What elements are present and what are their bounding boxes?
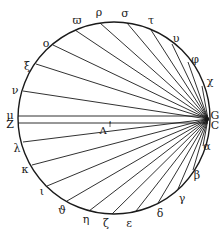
point-label: λ xyxy=(14,143,21,154)
point-label: ε xyxy=(126,218,132,229)
chord-line xyxy=(100,23,208,119)
point-label: ι xyxy=(40,186,44,197)
point-label: η xyxy=(83,214,90,225)
point-label: υ xyxy=(173,33,180,44)
chord-line xyxy=(32,119,208,165)
point-label: ο xyxy=(43,38,50,49)
point-label: χ xyxy=(207,76,214,87)
chord-line xyxy=(75,30,208,119)
point-label: α xyxy=(203,141,210,152)
point-label: μ xyxy=(6,110,13,121)
point-label: β xyxy=(194,170,200,181)
focus-point xyxy=(205,117,209,121)
interior-label-lambda: Λ xyxy=(99,126,106,136)
chord-line xyxy=(89,119,208,211)
chord-line xyxy=(23,91,208,119)
point-label: φ xyxy=(191,54,199,65)
point-label: δ xyxy=(157,208,164,219)
point-label: σ xyxy=(121,8,129,19)
chord-line xyxy=(36,64,208,119)
point-label: ϑ xyxy=(58,205,66,216)
point-label: ρ xyxy=(96,7,102,18)
circle-outline xyxy=(18,22,210,214)
point-label: ζ xyxy=(103,218,109,229)
point-label: γ xyxy=(179,193,186,204)
point-label: ν xyxy=(12,85,19,96)
point-label: ξ xyxy=(24,61,30,72)
point-label: ϖ xyxy=(73,15,82,26)
diagram-stage: ϖρστυφχαβγδεζηϑικλZμνξο Λ ' G C xyxy=(0,0,223,238)
circle-chord-figure xyxy=(0,0,223,238)
point-label: τ xyxy=(148,15,154,26)
chord-line xyxy=(127,23,208,119)
interior-label-tick: ' xyxy=(109,120,112,130)
point-label: κ xyxy=(22,164,29,175)
focus-label-c: C xyxy=(211,120,219,131)
